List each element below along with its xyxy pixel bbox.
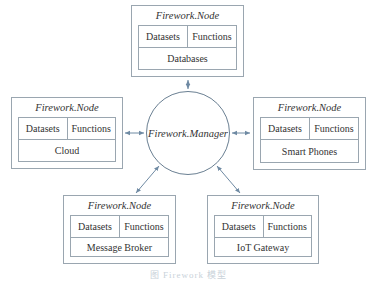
node-table: Datasets Functions Message Broker xyxy=(70,215,169,257)
node-table: Datasets Functions Databases xyxy=(138,25,237,70)
node-title: Firework.Node xyxy=(132,10,243,21)
datasets-cell: Datasets xyxy=(215,216,264,237)
node-smart-phones: Firework.Node Datasets Functions Smart P… xyxy=(253,97,366,170)
node-label: Smart Phones xyxy=(261,140,358,162)
node-label: Message Broker xyxy=(71,238,168,256)
arrow-manager-message-broker xyxy=(136,166,159,193)
functions-cell: Functions xyxy=(264,216,312,237)
node-iot-gateway: Firework.Node Datasets Functions IoT Gat… xyxy=(207,195,319,264)
node-label: Databases xyxy=(139,48,236,69)
datasets-cell: Datasets xyxy=(19,118,68,139)
node-title: Firework.Node xyxy=(64,200,175,211)
node-label: Cloud xyxy=(19,140,115,161)
node-message-broker: Firework.Node Datasets Functions Message… xyxy=(63,195,176,264)
functions-cell: Functions xyxy=(188,26,236,47)
node-table: Datasets Functions Cloud xyxy=(18,117,116,162)
node-title: Firework.Node xyxy=(208,200,318,211)
node-cloud: Firework.Node Datasets Functions Cloud xyxy=(11,97,123,169)
arrow-manager-iot-gateway xyxy=(217,166,240,193)
node-label: IoT Gateway xyxy=(215,238,311,256)
manager-node: Firework.Manager xyxy=(146,91,230,175)
node-table: Datasets Functions IoT Gateway xyxy=(214,215,312,257)
functions-cell: Functions xyxy=(120,216,168,237)
node-databases: Firework.Node Datasets Functions Databas… xyxy=(131,5,244,77)
functions-cell: Functions xyxy=(68,118,116,139)
figure-caption: 图 Firework 模型 xyxy=(0,268,377,281)
datasets-cell: Datasets xyxy=(71,216,120,237)
node-title: Firework.Node xyxy=(12,102,122,113)
datasets-cell: Datasets xyxy=(261,118,310,139)
manager-label: Firework.Manager xyxy=(148,128,228,139)
node-table: Datasets Functions Smart Phones xyxy=(260,117,359,163)
node-title: Firework.Node xyxy=(254,102,365,113)
functions-cell: Functions xyxy=(310,118,358,139)
datasets-cell: Datasets xyxy=(139,26,188,47)
